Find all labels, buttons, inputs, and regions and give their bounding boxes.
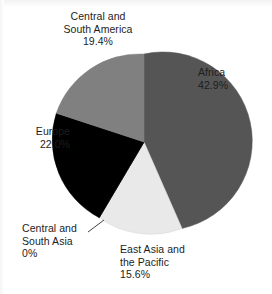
pie-label-europe: Europe 22.0% [4, 125, 70, 150]
pie-label-line-2: the Pacific [120, 256, 185, 269]
pie-label-central-and-south-asia: Central and South Asia 0% [22, 222, 77, 260]
pie-label-line-2: South Asia [22, 235, 77, 248]
pie-label-value: 15.6% [120, 268, 185, 281]
pie-label-africa: Africa 42.9% [198, 66, 228, 91]
pie-label-value: 42.9% [198, 79, 228, 92]
pie-label-line-1: Europe [4, 125, 70, 138]
pie-label-line-1: Central and [34, 10, 162, 23]
pie-label-central-and-south-america: Central and South America 19.4% [34, 10, 162, 48]
pie-label-value: 19.4% [34, 35, 162, 48]
pie-chart-figure: Central and South America 19.4% Africa 4… [0, 0, 272, 294]
pie-label-east-asia-and-the-pacific: East Asia and the Pacific 15.6% [120, 243, 185, 281]
pie-label-line-2: South America [34, 23, 162, 36]
pie-label-value: 22.0% [4, 138, 70, 151]
pie-label-line-1: Africa [198, 66, 228, 79]
pie-label-value: 0% [22, 247, 77, 260]
pie-label-line-1: East Asia and [120, 243, 185, 256]
leader-line-central-and-south-asia [88, 220, 104, 232]
pie-label-line-1: Central and [22, 222, 77, 235]
